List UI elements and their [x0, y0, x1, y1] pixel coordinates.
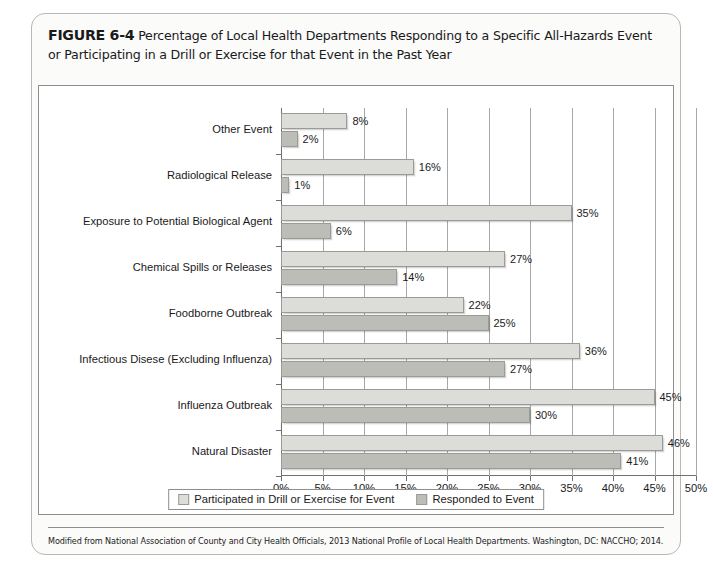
figure-caption: FIGURE 6-4 Percentage of Local Health De… [48, 26, 664, 64]
bar [281, 407, 530, 423]
legend-item-responded[interactable]: Responded to Event [416, 493, 533, 505]
bar [281, 177, 289, 193]
bar [281, 361, 505, 377]
bar-value-label: 8% [352, 113, 368, 129]
x-axis-tick-label: 40% [602, 482, 624, 494]
figure-number: FIGURE 6-4 [48, 27, 134, 43]
bar [281, 113, 347, 129]
bar-value-label: 2% [303, 131, 319, 147]
bar [281, 343, 580, 359]
bar [281, 131, 298, 147]
bar-value-label: 27% [510, 251, 532, 267]
x-axis-tick-mark [655, 476, 656, 481]
bar-value-label: 46% [668, 435, 690, 451]
bar-value-label: 45% [660, 389, 682, 405]
source-note: Modified from National Association of Co… [48, 535, 668, 547]
category-group: Chemical Spills or Releases27%14% [281, 246, 696, 292]
chart-panel: 0%5%10%15%20%25%30%35%40%45%50%Other Eve… [38, 85, 674, 515]
x-axis-tick-mark [323, 476, 324, 481]
bar-value-label: 22% [469, 297, 491, 313]
bar-value-label: 6% [336, 223, 352, 239]
bar-value-label: 16% [419, 159, 441, 175]
bar [281, 315, 489, 331]
category-group: Exposure to Potential Biological Agent35… [281, 200, 696, 246]
category-label: Influenza Outbreak [12, 399, 272, 411]
bar [281, 251, 505, 267]
x-axis-tick-mark [447, 476, 448, 481]
category-group: Foodborne Outbreak22%25% [281, 292, 696, 338]
plot-area: 0%5%10%15%20%25%30%35%40%45%50%Other Eve… [281, 108, 696, 476]
x-axis-tick-label: 50% [685, 482, 707, 494]
legend-swatch-icon [178, 494, 189, 505]
category-group: Influenza Outbreak45%30% [281, 384, 696, 430]
legend-label: Responded to Event [432, 493, 533, 505]
source-divider [48, 527, 664, 528]
legend-label: Participated in Drill or Exercise for Ev… [194, 493, 394, 505]
y-axis-tick-mark [276, 476, 281, 477]
category-group: Other Event8%2% [281, 108, 696, 154]
bar-value-label: 25% [494, 315, 516, 331]
bar-value-label: 30% [535, 407, 557, 423]
x-axis-tick-mark [696, 476, 697, 481]
x-axis-tick-mark [406, 476, 407, 481]
category-group: Infectious Disese (Excluding Influenza)3… [281, 338, 696, 384]
chart-legend: Participated in Drill or Exercise for Ev… [168, 489, 544, 510]
bar [281, 389, 655, 405]
bar [281, 435, 663, 451]
category-label: Infectious Disese (Excluding Influenza) [12, 353, 272, 365]
x-axis-tick-label: 35% [560, 482, 582, 494]
legend-item-participated[interactable]: Participated in Drill or Exercise for Ev… [178, 493, 394, 505]
bar-value-label: 14% [402, 269, 424, 285]
category-label: Other Event [12, 123, 272, 135]
x-axis-tick-mark [613, 476, 614, 481]
bar-value-label: 1% [294, 177, 310, 193]
x-axis-tick-label: 45% [643, 482, 665, 494]
legend-swatch-icon [416, 494, 427, 505]
category-group: Radiological Release16%1% [281, 154, 696, 200]
bar-value-label: 35% [577, 205, 599, 221]
category-label: Radiological Release [12, 169, 272, 181]
bar [281, 159, 414, 175]
figure-title: Percentage of Local Health Departments R… [48, 28, 652, 62]
bar [281, 297, 464, 313]
x-axis-tick-mark [530, 476, 531, 481]
bar [281, 453, 621, 469]
bar-value-label: 41% [626, 453, 648, 469]
gridline [696, 108, 697, 476]
bar-value-label: 27% [510, 361, 532, 377]
bar [281, 269, 397, 285]
bar [281, 205, 572, 221]
x-axis-tick-mark [572, 476, 573, 481]
bar-value-label: 36% [585, 343, 607, 359]
category-label: Natural Disaster [12, 445, 272, 457]
x-axis-tick-mark [364, 476, 365, 481]
category-label: Foodborne Outbreak [12, 307, 272, 319]
x-axis-tick-mark [281, 476, 282, 481]
figure-card: FIGURE 6-4 Percentage of Local Health De… [31, 13, 681, 555]
category-label: Chemical Spills or Releases [12, 261, 272, 273]
figure-page: FIGURE 6-4 Percentage of Local Health De… [0, 0, 713, 570]
x-axis-tick-mark [489, 476, 490, 481]
bar [281, 223, 331, 239]
category-label: Exposure to Potential Biological Agent [12, 215, 272, 227]
category-group: Natural Disaster46%41% [281, 430, 696, 476]
